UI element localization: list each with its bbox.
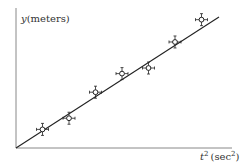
data-point [169, 36, 181, 48]
data-point [196, 14, 208, 26]
data-point [63, 112, 75, 124]
chart: y(meters) t2(sec2) [0, 0, 252, 168]
data-points [37, 14, 208, 136]
data-point [90, 86, 102, 98]
data-point [143, 62, 155, 74]
x-axis-label: t2(sec2) [200, 150, 240, 162]
data-point [116, 68, 128, 80]
y-axis-label: y(meters) [20, 13, 70, 24]
fit-line [16, 17, 219, 148]
